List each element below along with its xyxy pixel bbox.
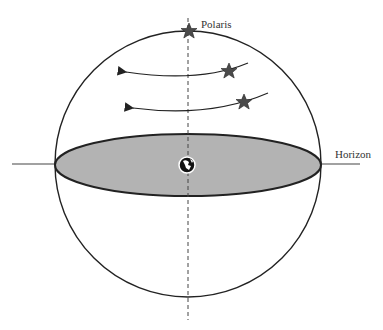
celestial-sphere-diagram xyxy=(0,0,383,330)
horizon-label: Horizon xyxy=(335,148,371,160)
polaris-star-icon xyxy=(181,23,197,38)
star-upper-icon xyxy=(221,63,237,78)
star-lower-icon xyxy=(236,94,252,109)
earth-icon xyxy=(179,157,195,173)
polaris-label: Polaris xyxy=(201,18,232,30)
